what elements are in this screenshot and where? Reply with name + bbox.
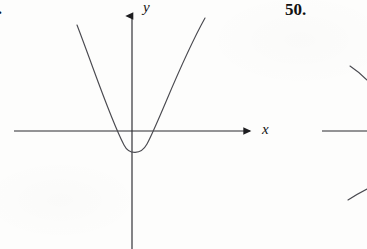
curve-fragment-upper [350,66,367,80]
curve-fragment-lower [348,189,367,200]
scanned-page: ). 50. y x [0,0,367,249]
partial-figure-50 [0,0,367,249]
